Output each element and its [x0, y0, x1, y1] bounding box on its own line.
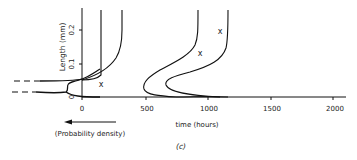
marker-x-3: x — [218, 27, 223, 36]
y-tick-label-0.2: 0.2 — [68, 24, 76, 35]
x-tick-label-500: 500 — [140, 105, 153, 113]
y-tick-label-0.1: 0.1 — [68, 58, 76, 69]
density-label: (Probability density) — [55, 130, 126, 138]
marker-x-1: x — [99, 80, 104, 89]
x-tick-label-2000: 2000 — [326, 105, 344, 113]
marker-x-2: x — [198, 49, 203, 58]
x-axis-label: time (hours) — [175, 121, 218, 129]
x-tick-label-1000: 1000 — [200, 105, 218, 113]
panel-label: (c) — [176, 142, 186, 151]
arrow-left-icon — [64, 120, 72, 125]
x-tick-label-1500: 1500 — [263, 105, 281, 113]
growth-curve-850h — [144, 10, 198, 97]
y-axis-label: Length (mm) — [58, 23, 67, 72]
chart-figure: 0 0.1 0.2 Length (mm) 0 500 1000 1500 20… — [0, 0, 357, 160]
growth-curve-300h — [82, 10, 122, 80]
x-tick-label-0: 0 — [80, 105, 84, 113]
